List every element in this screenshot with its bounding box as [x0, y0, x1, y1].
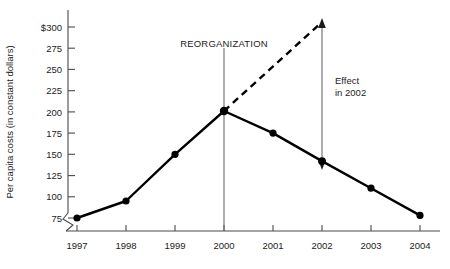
x-tick-2001: 2001: [262, 225, 283, 251]
y-tick-300: $300: [41, 22, 75, 33]
x-tick-2002: 2002: [311, 225, 332, 251]
x-tick-label: 2003: [360, 240, 381, 251]
x-tick-label: 2002: [311, 240, 332, 251]
data-point-markers: [73, 107, 423, 222]
x-tick-2004: 2004: [409, 225, 430, 251]
y-tick-200: 200: [46, 107, 75, 118]
effect-annotation-line2: in 2002: [335, 87, 366, 98]
x-tick-label: 1998: [115, 240, 136, 251]
y-tick-150: 150: [46, 149, 75, 160]
y-tick-label: 175: [46, 128, 62, 139]
effect-arrow-up: [318, 18, 326, 28]
x-tick-label: 2001: [262, 240, 283, 251]
data-point: [269, 130, 276, 137]
x-tick-1997: 1997: [66, 225, 87, 251]
x-tick-1998: 1998: [115, 225, 136, 251]
y-tick-label: 250: [46, 64, 62, 75]
y-tick-label: 275: [46, 43, 62, 54]
y-tick-275: 275: [46, 43, 75, 54]
data-point: [171, 151, 178, 158]
y-tick-label: 225: [46, 85, 62, 96]
x-tick-label: 2000: [213, 240, 234, 251]
data-point: [220, 107, 228, 115]
y-tick-label: 75: [51, 213, 62, 224]
reorganization-annotation-label: REORGANIZATION: [180, 38, 268, 49]
y-tick-label: 150: [46, 149, 62, 160]
y-axis-ticks: $300 275 250 225 200 175: [41, 22, 75, 224]
y-axis-break-symbol: [63, 213, 73, 231]
data-point: [416, 212, 423, 219]
x-tick-label: 1999: [164, 240, 185, 251]
data-point: [73, 214, 80, 221]
x-tick-2003: 2003: [360, 225, 381, 251]
x-tick-label: 1997: [66, 240, 87, 251]
y-tick-100: 100: [46, 191, 75, 202]
y-tick-175: 175: [46, 128, 75, 139]
y-tick-label: 100: [46, 191, 62, 202]
x-tick-1999: 1999: [164, 225, 185, 251]
y-tick-label: $300: [41, 22, 62, 33]
y-axis-title: Per capita costs (in constant dollars): [4, 45, 15, 198]
y-tick-label: 200: [46, 107, 62, 118]
x-axis-ticks: 1997 1998 1999 2000 2001 2002: [66, 225, 430, 251]
projected-trend-line: [224, 22, 322, 111]
x-tick-label: 2004: [409, 240, 430, 251]
chart-container: Per capita costs (in constant dollars) $…: [0, 0, 450, 269]
y-tick-125: 125: [46, 170, 75, 181]
line-chart: Per capita costs (in constant dollars) $…: [0, 0, 450, 269]
data-point: [122, 197, 129, 204]
y-tick-225: 225: [46, 85, 75, 96]
data-point: [318, 157, 326, 165]
data-point: [367, 185, 374, 192]
y-tick-250: 250: [46, 64, 75, 75]
effect-annotation-line1: Effect: [335, 75, 359, 86]
y-tick-label: 125: [46, 170, 62, 181]
